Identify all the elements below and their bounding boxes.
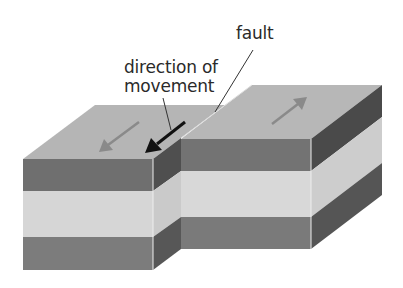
direction-label-line-2: movement	[124, 77, 214, 95]
left-block-front-middle-layer	[23, 191, 153, 237]
fault-diagram: fault direction of movement	[0, 0, 403, 288]
fault-label: fault	[236, 24, 274, 42]
right-block-front-top-layer	[181, 139, 311, 171]
right-block-front-bottom-layer	[181, 217, 311, 249]
right-block-front-middle-layer	[181, 171, 311, 217]
left-block-front-top-layer	[23, 159, 153, 191]
direction-label-line-1: direction of	[124, 58, 218, 76]
left-block-front-bottom-layer	[23, 237, 153, 270]
block-diagram-graphic	[0, 0, 403, 288]
